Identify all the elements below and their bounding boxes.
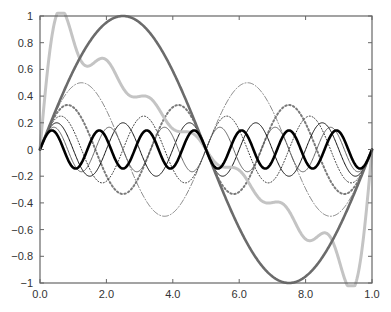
y-axis-ticks: 10.80.60.40.20−0.2−0.4−0.6−0.8−1 (11, 10, 372, 289)
y-tick-label: −0.4 (11, 197, 33, 209)
y-tick-label: −0.2 (11, 170, 33, 182)
fourier-line-chart: 0.02.04.06.08.01.0 10.80.60.40.20−0.2−0.… (0, 0, 391, 312)
x-tick-label: 0.0 (32, 288, 47, 300)
x-tick-label: 8.0 (298, 288, 313, 300)
y-tick-label: −1 (20, 277, 33, 289)
x-tick-label: 1.0 (364, 288, 379, 300)
y-tick-label: 0.8 (18, 37, 33, 49)
y-tick-label: −0.6 (11, 224, 33, 236)
x-tick-label: 4.0 (165, 288, 180, 300)
y-tick-label: 0.6 (18, 63, 33, 75)
y-tick-label: 1 (27, 10, 33, 22)
y-tick-label: 0 (27, 144, 33, 156)
y-tick-label: −0.8 (11, 250, 33, 262)
series-layer (40, 13, 372, 285)
y-tick-label: 0.2 (18, 117, 33, 129)
x-tick-label: 2.0 (99, 288, 114, 300)
y-tick-label: 0.4 (18, 90, 33, 102)
x-tick-label: 6.0 (232, 288, 247, 300)
